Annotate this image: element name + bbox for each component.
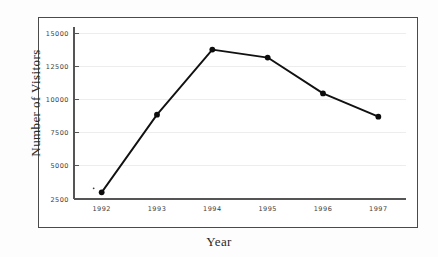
data-point-marker <box>320 91 326 97</box>
x-tick-labels-group: 199219931994199519961997 <box>92 205 387 213</box>
y-tick-labels-group: 250050007500100001250015000 <box>46 30 69 204</box>
y-tick-label: 12500 <box>46 63 69 71</box>
y-tick-label: 2500 <box>50 196 69 204</box>
scan-speck <box>93 187 95 189</box>
series-line <box>102 50 379 193</box>
y-tick-label: 10000 <box>46 96 69 104</box>
data-point-marker <box>209 47 215 53</box>
x-tick-label: 1993 <box>148 205 167 213</box>
data-point-marker <box>265 55 271 61</box>
data-series-group <box>99 47 381 196</box>
data-point-marker <box>375 114 381 120</box>
data-point-marker <box>154 112 160 118</box>
line-chart-plot: 250050007500100001250015000 199219931994… <box>38 17 418 228</box>
y-tick-marks-group <box>74 33 79 199</box>
x-tick-label: 1997 <box>369 205 388 213</box>
x-tick-label: 1994 <box>203 205 222 213</box>
x-axis-title: Year <box>0 234 438 250</box>
x-tick-label: 1995 <box>258 205 277 213</box>
y-tick-label: 5000 <box>50 162 69 170</box>
x-tick-label: 1996 <box>314 205 333 213</box>
y-tick-label: 15000 <box>46 30 69 38</box>
chart-figure: Number of Visitors Year 2500500075001000… <box>0 0 438 257</box>
scan-artifact-group <box>93 187 95 189</box>
data-point-marker <box>99 189 105 195</box>
y-tick-label: 7500 <box>50 129 69 137</box>
x-tick-label: 1992 <box>92 205 111 213</box>
